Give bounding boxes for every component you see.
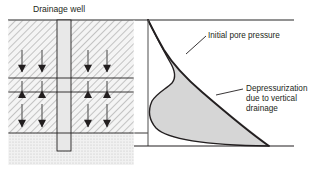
leader-line-depressurization [216, 89, 243, 95]
drainage-well-label: Drainage well [33, 4, 85, 14]
pore-pressure-drainage-diagram: Drainage well Initial pore pressure Depr… [0, 0, 314, 178]
depressurization-label-line2: due to vertical [246, 94, 297, 103]
depressurization-label-line1: Depressurization [246, 84, 308, 93]
leader-line-initial-pore-pressure [186, 36, 206, 54]
depressurization-label-line3: drainage [246, 104, 278, 113]
diagram-canvas: Drainage well Initial pore pressure Depr… [0, 0, 314, 178]
initial-pore-pressure-label: Initial pore pressure [208, 31, 280, 40]
drainage-well-group [57, 20, 71, 151]
drainage-well-column [57, 20, 71, 151]
